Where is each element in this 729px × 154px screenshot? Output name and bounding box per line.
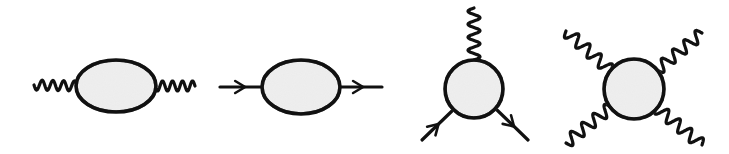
wavy-photon-line: [564, 31, 612, 71]
wavy-photon-line: [34, 80, 77, 91]
wavy-photon-line: [657, 30, 702, 72]
photon-self-energy-diagram: [34, 60, 195, 112]
wavy-photon-line: [468, 8, 480, 60]
diagram-svg: [0, 0, 729, 154]
feynman-diagrams-figure: [0, 0, 729, 154]
wavy-photon-line: [155, 81, 195, 91]
three-point-vertex-diagram: [422, 8, 528, 140]
wavy-photon-line: [566, 104, 611, 145]
fermion-self-energy-diagram: [220, 60, 382, 114]
four-point-vertex-diagram: [564, 30, 703, 145]
wavy-photon-line: [655, 107, 704, 145]
